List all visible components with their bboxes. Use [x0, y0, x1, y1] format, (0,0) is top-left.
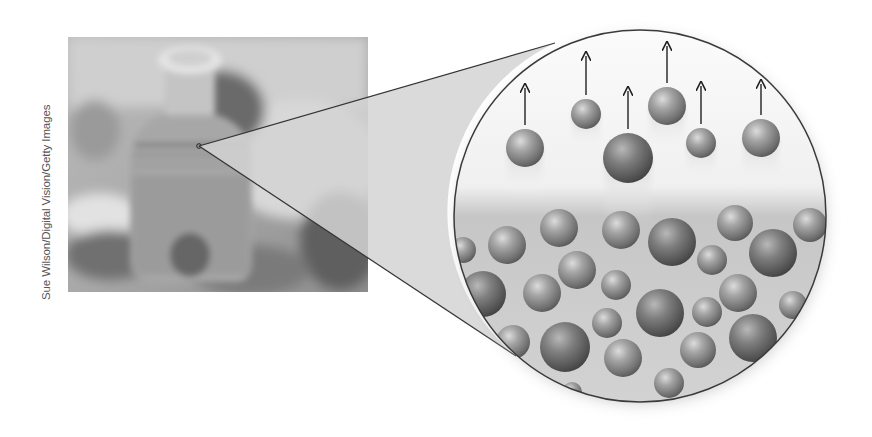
- liquid-molecule: [719, 274, 757, 312]
- magnified-view: [450, 30, 827, 402]
- liquid-molecule: [601, 270, 631, 300]
- liquid-molecule: [592, 308, 622, 338]
- liquid-molecule: [648, 218, 696, 266]
- liquid-molecule: [488, 226, 526, 264]
- liquid-molecule: [636, 289, 684, 337]
- liquid-molecule: [540, 209, 578, 247]
- liquid-molecule: [749, 229, 797, 277]
- liquid-molecule: [558, 251, 596, 289]
- liquid-molecule: [602, 211, 640, 249]
- liquid-molecule: [692, 297, 722, 327]
- liquid-molecule: [680, 332, 716, 368]
- liquid-molecule: [604, 339, 642, 377]
- liquid-molecule: [654, 368, 684, 398]
- liquid-molecule: [793, 208, 827, 242]
- liquid-molecule: [523, 274, 561, 312]
- liquid-molecule: [540, 322, 590, 372]
- evaporation-diagram: [0, 0, 872, 437]
- liquid-molecule: [717, 205, 753, 241]
- liquid-molecule: [697, 245, 727, 275]
